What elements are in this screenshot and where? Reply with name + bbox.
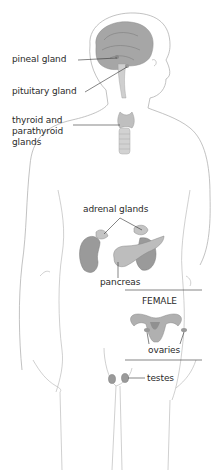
label-ovaries: ovaries <box>148 345 180 356</box>
label-female: FEMALE <box>142 296 177 307</box>
testes-shapes <box>109 374 129 384</box>
thyroid-trachea <box>118 112 135 154</box>
uterus-ovaries <box>131 314 187 342</box>
brain <box>96 22 153 98</box>
body-illustration <box>0 0 223 473</box>
label-pancreas: pancreas <box>100 277 140 288</box>
label-thyroid-line2: parathyroid <box>12 126 63 137</box>
label-pineal-gland: pineal gland <box>12 54 66 65</box>
kidneys-adrenal-pancreas <box>80 225 165 272</box>
label-testes: testes <box>147 373 174 384</box>
label-adrenal-glands: adrenal glands <box>83 204 148 215</box>
endocrine-diagram: pineal gland pituitary gland thyroid and… <box>0 0 223 473</box>
torso-lines <box>33 190 196 470</box>
label-thyroid-line1: thyroid and <box>12 115 62 126</box>
label-pituitary-gland: pituitary gland <box>12 86 77 97</box>
label-thyroid-line3: glands <box>12 137 41 148</box>
